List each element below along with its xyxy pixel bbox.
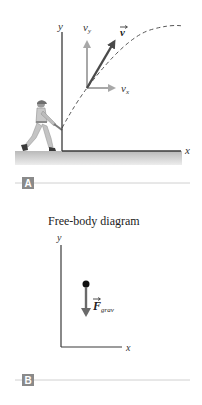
figure-canvas: y x vy vx v A Free-body diagram y x Fgra… [0, 0, 202, 405]
gravity-force-label: Fgrav [92, 299, 115, 314]
velocity-label: v [120, 26, 125, 38]
y-axis-label: y [57, 20, 63, 32]
trajectory-dashed-curve [62, 26, 183, 129]
ground [15, 151, 182, 165]
velocity-arrow [87, 42, 114, 88]
fbd-y-axis-label: y [56, 232, 62, 243]
batter-figure [21, 100, 62, 151]
badge-b-label: B [25, 375, 32, 386]
vy-label: vy [83, 21, 92, 35]
free-body-title: Free-body diagram [48, 214, 140, 228]
body-point [83, 281, 90, 288]
panel-b: Free-body diagram y x Fgrav B [15, 214, 190, 386]
x-axis-label: x [184, 144, 190, 156]
fbd-x-axis-label: x [125, 342, 131, 353]
vx-label: vx [121, 82, 130, 96]
panel-a: y x vy vx v A [15, 20, 190, 189]
badge-a-label: A [25, 178, 32, 189]
